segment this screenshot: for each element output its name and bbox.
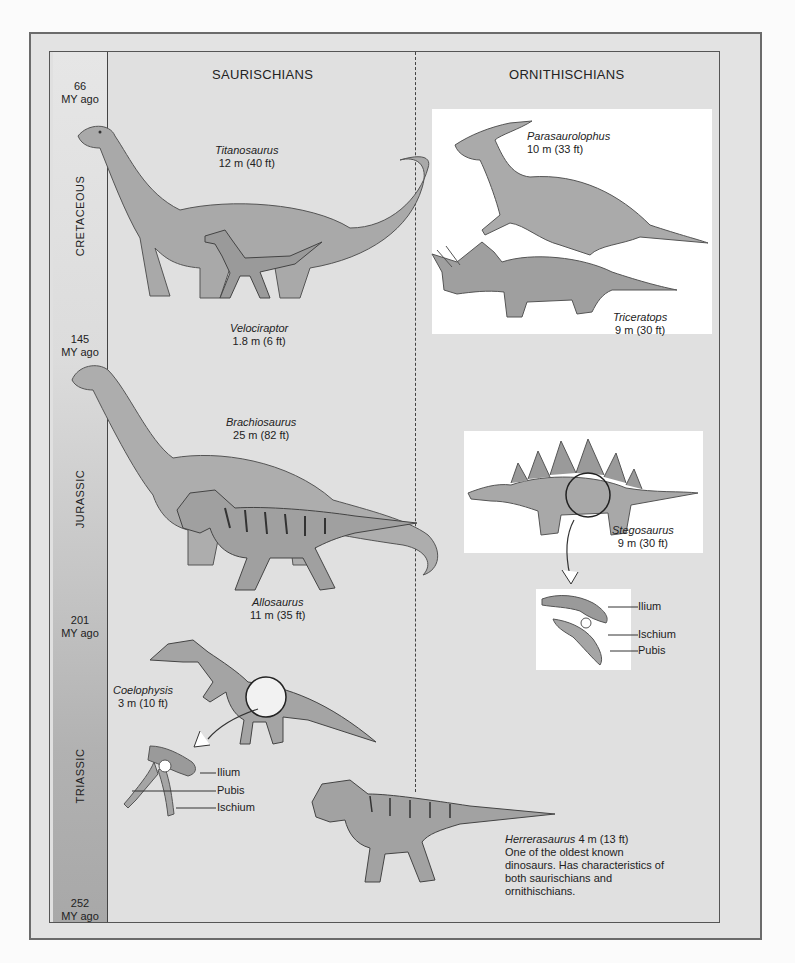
label-coelophysis: Coelophysis 3 m (10 ft)	[113, 684, 173, 710]
heading-saurischians: SAURISCHIANS	[212, 67, 313, 82]
velociraptor-illustration	[200, 228, 330, 303]
zoom-arrow-icon	[554, 518, 594, 588]
triceratops-illustration	[432, 232, 682, 322]
label-parasaurolophus: Parasaurolophus 10 m (33 ft)	[527, 130, 610, 156]
time-marker-66: 66 MY ago	[53, 80, 107, 106]
label-allosaurus: Allosaurus 11 m (35 ft)	[250, 596, 305, 622]
hip-label-ischium-left: Ischium	[217, 801, 255, 813]
label-brachiosaurus: Brachiosaurus 25 m (82 ft)	[226, 416, 296, 442]
time-marker-201: 201 MY ago	[53, 614, 107, 640]
allosaurus-illustration	[175, 488, 420, 603]
hip-label-ilium-right: Ilium	[638, 600, 661, 612]
time-marker-145: 145 MY ago	[53, 333, 107, 359]
hip-label-pubis-right: Pubis	[638, 644, 666, 656]
hip-leader-lines-right	[600, 600, 640, 655]
period-triassic: TRIASSIC	[74, 716, 86, 836]
label-titanosaurus: Titanosaurus 12 m (40 ft)	[215, 144, 279, 170]
hip-label-ischium-right: Ischium	[638, 628, 676, 640]
hip-label-pubis-left: Pubis	[217, 784, 245, 796]
heading-ornithischians: ORNITHISCHIANS	[509, 67, 624, 82]
label-velociraptor: Velociraptor 1.8 m (6 ft)	[230, 322, 288, 348]
label-triceratops: Triceratops 9 m (30 ft)	[613, 311, 667, 337]
hip-label-ilium-left: Ilium	[217, 766, 240, 778]
label-stegosaurus: Stegosaurus 9 m (30 ft)	[612, 524, 674, 550]
herrerasaurus-description: Herrerasaurus 4 m (13 ft) One of the old…	[505, 833, 675, 898]
hip-leader-lines-left	[130, 770, 220, 815]
time-marker-252: 252 MY ago	[53, 897, 107, 923]
